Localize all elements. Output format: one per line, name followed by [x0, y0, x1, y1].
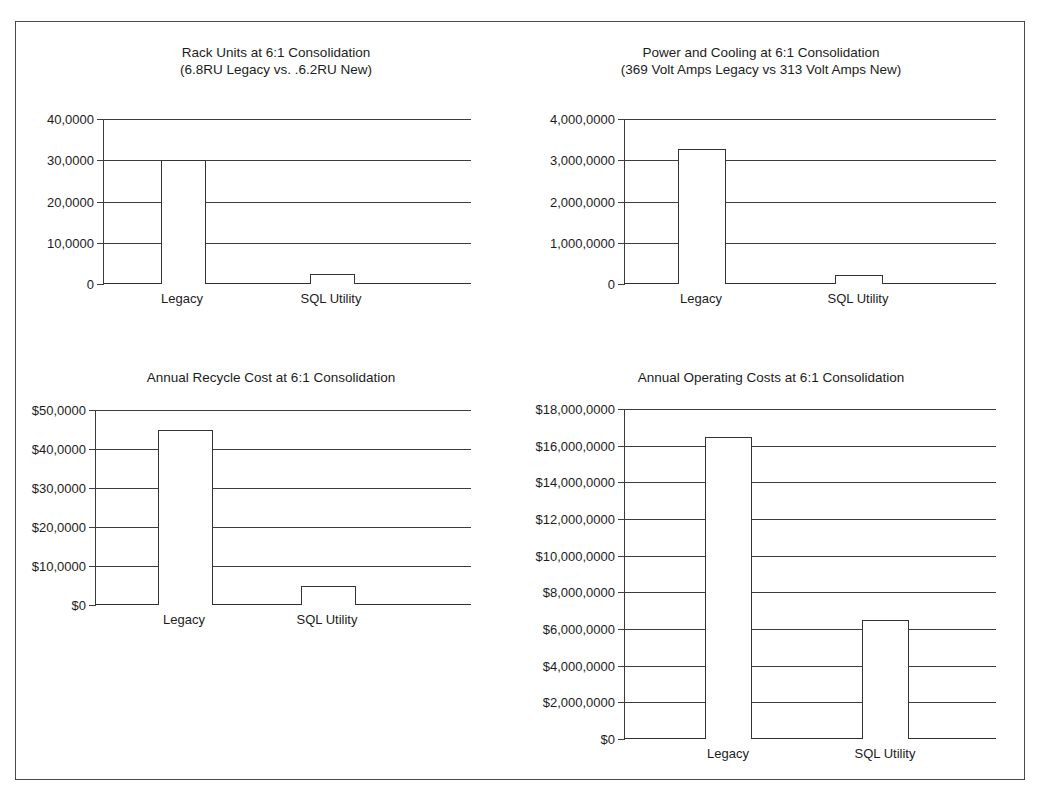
chart-title-line-1: Annual Operating Costs at 6:1 Consolidat… [541, 369, 1001, 386]
y-tick-mark [618, 446, 625, 447]
gridline [625, 519, 996, 520]
bar-sql-utility [862, 620, 909, 739]
x-axis-label-legacy: Legacy [680, 291, 722, 306]
bar-legacy [158, 430, 213, 606]
gridline [625, 592, 996, 593]
x-axis-baseline [625, 738, 996, 739]
plot-area-rack-units: 40,0000 30,0000 20,0000 10,0000 0 [103, 119, 471, 284]
y-tick-mark [618, 556, 625, 557]
x-axis-label-sql-utility: SQL Utility [828, 291, 889, 306]
y-axis-label: 0 [608, 277, 615, 292]
y-tick-mark [618, 202, 625, 203]
y-axis-label: $12,000,0000 [535, 511, 615, 526]
bar-sql-utility [835, 275, 883, 284]
y-axis-label: $0 [601, 732, 615, 747]
gridline [104, 119, 471, 120]
y-axis-label: $14,000,0000 [535, 475, 615, 490]
y-tick-mark [618, 243, 625, 244]
gridline [104, 243, 471, 244]
y-tick-mark [618, 409, 625, 410]
y-tick-mark [618, 119, 625, 120]
scanned-page-frame: Rack Units at 6:1 Consolidation (6.8RU L… [15, 21, 1025, 780]
gridline [625, 409, 996, 410]
gridline [96, 449, 471, 450]
y-tick-mark [97, 160, 104, 161]
y-tick-mark [89, 605, 96, 606]
y-tick-mark [618, 284, 625, 285]
y-axis-label: $2,000,0000 [543, 695, 615, 710]
y-axis-label: 30,0000 [47, 153, 94, 168]
plot-frame: 40,0000 30,0000 20,0000 10,0000 0 [103, 119, 471, 284]
y-tick-mark [618, 666, 625, 667]
y-axis-label: 2,000,0000 [550, 194, 615, 209]
plot-frame: $50,0000 $40,0000 $30,0000 $20,0000 $10,… [95, 410, 471, 605]
y-tick-mark [618, 592, 625, 593]
y-axis-label: $8,000,0000 [543, 585, 615, 600]
bar-sql-utility [310, 274, 355, 284]
y-tick-mark [89, 410, 96, 411]
y-tick-mark [97, 284, 104, 285]
plot-frame: $18,000,0000 $16,000,0000 $14,000,0000 $… [624, 409, 996, 739]
gridline [625, 702, 996, 703]
y-tick-mark [89, 527, 96, 528]
y-axis-label: 4,000,0000 [550, 112, 615, 127]
y-tick-mark [89, 488, 96, 489]
y-tick-mark [618, 702, 625, 703]
y-axis-label: 20,0000 [47, 194, 94, 209]
y-axis-label: $20,0000 [32, 520, 86, 535]
chart-title-line-2: (6.8RU Legacy vs. .6.2RU New) [76, 61, 476, 78]
y-axis-label: $40,0000 [32, 442, 86, 457]
y-axis-label: $18,000,0000 [535, 402, 615, 417]
chart-title-rack-units: Rack Units at 6:1 Consolidation (6.8RU L… [76, 44, 476, 78]
y-axis-label: $0 [72, 598, 86, 613]
chart-annual-recycle-cost: Annual Recycle Cost at 6:1 Consolidation… [16, 352, 486, 642]
y-axis-label: $10,000,0000 [535, 548, 615, 563]
bar-legacy [161, 160, 206, 284]
gridline [96, 566, 471, 567]
x-axis-baseline [104, 283, 471, 284]
bar-sql-utility [301, 586, 356, 606]
y-tick-mark [618, 739, 625, 740]
y-axis-label: $6,000,0000 [543, 621, 615, 636]
x-axis-label-sql-utility: SQL Utility [297, 612, 358, 627]
bar-legacy [678, 149, 726, 284]
y-axis-label: 1,000,0000 [550, 235, 615, 250]
y-axis-label: $16,000,0000 [535, 438, 615, 453]
plot-area-annual-recycle-cost: $50,0000 $40,0000 $30,0000 $20,0000 $10,… [95, 410, 471, 605]
chart-title-line-1: Rack Units at 6:1 Consolidation [76, 44, 476, 61]
chart-title-annual-recycle-cost: Annual Recycle Cost at 6:1 Consolidation [66, 369, 476, 386]
chart-title-annual-operating-costs: Annual Operating Costs at 6:1 Consolidat… [541, 369, 1001, 386]
y-axis-label: $30,0000 [32, 481, 86, 496]
gridline [625, 119, 996, 120]
x-axis-label-legacy: Legacy [161, 291, 203, 306]
gridline [104, 160, 471, 161]
y-axis-label: 3,000,0000 [550, 153, 615, 168]
y-tick-mark [618, 519, 625, 520]
gridline [96, 488, 471, 489]
plot-area-power-cooling: 4,000,0000 3,000,0000 2,000,0000 1,000,0… [624, 119, 996, 284]
y-axis-label: $50,0000 [32, 403, 86, 418]
chart-rack-units: Rack Units at 6:1 Consolidation (6.8RU L… [16, 22, 486, 312]
x-axis-label-sql-utility: SQL Utility [301, 291, 362, 306]
gridline [625, 666, 996, 667]
chart-power-cooling: Power and Cooling at 6:1 Consolidation (… [511, 22, 1026, 312]
y-tick-mark [618, 160, 625, 161]
gridline [625, 482, 996, 483]
chart-title-line-1: Power and Cooling at 6:1 Consolidation [521, 44, 1001, 61]
gridline [104, 202, 471, 203]
y-axis-label: 40,0000 [47, 112, 94, 127]
gridline [96, 410, 471, 411]
y-tick-mark [97, 202, 104, 203]
y-tick-mark [97, 119, 104, 120]
plot-frame: 4,000,0000 3,000,0000 2,000,0000 1,000,0… [624, 119, 996, 284]
x-axis-label-legacy: Legacy [707, 746, 749, 761]
chart-title-line-1: Annual Recycle Cost at 6:1 Consolidation [66, 369, 476, 386]
y-tick-mark [618, 482, 625, 483]
chart-annual-operating-costs: Annual Operating Costs at 6:1 Consolidat… [511, 352, 1026, 772]
y-tick-mark [89, 449, 96, 450]
y-axis-label: 10,0000 [47, 235, 94, 250]
y-tick-mark [97, 243, 104, 244]
y-axis-label: $10,0000 [32, 559, 86, 574]
plot-area-annual-operating-costs: $18,000,0000 $16,000,0000 $14,000,0000 $… [624, 409, 996, 739]
y-tick-mark [89, 566, 96, 567]
